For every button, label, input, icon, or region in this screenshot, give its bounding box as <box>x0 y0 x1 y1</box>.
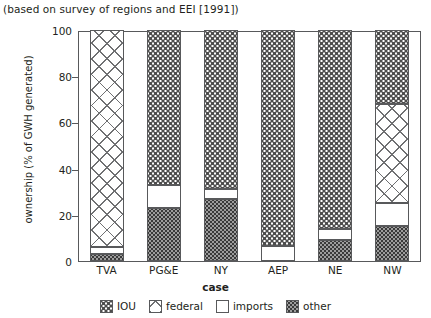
legend: IOUfederalimportsother <box>0 297 431 315</box>
legend-item-other[interactable]: other <box>286 300 331 313</box>
legend-label: federal <box>166 300 203 313</box>
y-tick-label: 40 <box>59 164 72 177</box>
y-tick-label: 20 <box>59 210 72 223</box>
bar-segment-iou <box>318 30 352 229</box>
legend-swatch-other <box>286 300 299 313</box>
x-tick-label: NE <box>307 264 364 276</box>
legend-label: IOU <box>117 300 136 313</box>
x-tick-label: NY <box>192 264 249 276</box>
bar-segment-federal <box>375 104 409 203</box>
x-tick-label: PG&E <box>135 264 192 276</box>
bar-tva <box>90 32 124 261</box>
bar-segment-federal <box>90 30 124 247</box>
chart-figure: (based on survey of regions and EEI [199… <box>0 0 431 318</box>
y-tick-label: 80 <box>59 71 72 84</box>
bar-segment-iou <box>204 30 238 189</box>
bar-pg-e <box>147 32 181 261</box>
bar-segment-other <box>90 254 124 261</box>
x-tick-label: NW <box>364 264 421 276</box>
bar-segment-other <box>147 208 181 261</box>
bar-segment-imports <box>261 246 295 261</box>
bar-ne <box>318 32 352 261</box>
bar-segment-other <box>375 226 409 261</box>
bar-segment-other <box>318 240 352 261</box>
bar-segment-imports <box>90 247 124 254</box>
y-axis-tick-labels: 020406080100 <box>40 24 72 269</box>
legend-label: imports <box>233 300 273 313</box>
legend-item-iou[interactable]: IOU <box>100 300 136 313</box>
legend-item-imports[interactable]: imports <box>216 300 273 313</box>
x-tick-label: AEP <box>250 264 307 276</box>
y-tick-label: 100 <box>52 25 72 38</box>
plot-area <box>78 31 421 262</box>
legend-item-federal[interactable]: federal <box>149 300 203 313</box>
bar-segment-imports <box>204 189 238 198</box>
legend-swatch-imports <box>216 300 229 313</box>
bar-segment-iou <box>147 30 181 185</box>
legend-label: other <box>303 300 331 313</box>
bar-segment-iou <box>375 30 409 104</box>
y-tick-mark <box>72 216 78 217</box>
legend-swatch-iou <box>100 300 113 313</box>
x-axis-title: case <box>0 281 431 293</box>
y-tick-mark <box>72 170 78 171</box>
x-axis-tick-labels: TVAPG&ENYAEPNENW <box>78 264 421 280</box>
bar-segment-imports <box>147 185 181 208</box>
figure-caption: (based on survey of regions and EEI [199… <box>3 3 239 15</box>
x-tick-label: TVA <box>78 264 135 276</box>
bar-ny <box>204 32 238 261</box>
bar-segment-imports <box>375 203 409 226</box>
y-axis-title: ownership (% of GWH generated) <box>23 64 34 224</box>
y-tick-mark <box>72 77 78 78</box>
bar-segment-imports <box>318 229 352 241</box>
legend-swatch-federal <box>149 300 162 313</box>
y-tick-label: 60 <box>59 117 72 130</box>
y-tick-mark <box>72 123 78 124</box>
bar-segment-iou <box>261 30 295 246</box>
bar-nw <box>375 32 409 261</box>
bar-segment-other <box>204 199 238 261</box>
y-tick-label: 0 <box>65 256 72 269</box>
bar-aep <box>261 32 295 261</box>
